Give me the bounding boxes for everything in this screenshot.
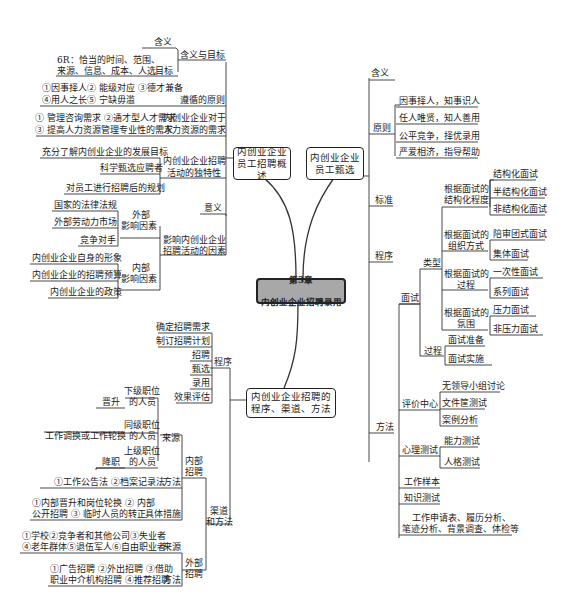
root-chapter-title: 内创业企业招聘录用 [261,297,342,307]
node-work-sample[interactable]: 工作样本 [404,477,440,488]
node-principles-line1: ①因事择人② 能级对应 ③德才兼备 [42,83,183,94]
node-internal-recruit-label-1[interactable]: 内部 [183,456,205,467]
node-selection-meaning[interactable]: 含义 [371,68,389,79]
interview-type-jury: 陪审团式面试 [493,229,547,240]
interview-type-group-3-label-1[interactable]: 根据面试的 [444,269,488,280]
node-principles-line2: ④用人之长⑤ 宁缺毋滥 [42,95,135,106]
internal-factor-item-2: 内创业企业的招聘预算 [32,270,122,281]
selection-principle-2: 任人唯贤，知人善用 [399,113,480,124]
interview-type-group-4-label-1[interactable]: 根据面试的 [444,308,488,319]
node-channels-label-1[interactable]: 渠道 [208,506,230,517]
node-meaning-goal[interactable]: 含义与目标 [180,50,225,61]
node-other-methods-line2[interactable]: 笔迹分析、背景调查、体检等 [402,524,519,535]
node-external-source[interactable]: 来源 [163,542,181,553]
external-factor-item-1: 国家的法律法规 [54,200,117,211]
internal-source-same-2: 的人员 [124,431,160,442]
node-interview-process[interactable]: 过程 [424,346,442,357]
node-meaning-goal-meaning[interactable]: 含义 [154,37,172,48]
node-internal-factors-label-1[interactable]: 内部 [128,263,154,274]
node-uniqueness-item-2: 科学甄选应聘者 [100,163,163,174]
branch-overview[interactable]: 内创业企业 员工招聘概述 [233,147,291,180]
node-uniqueness-label-1[interactable]: 内创业企业招聘 [163,156,226,167]
branch-process-channels[interactable]: 内创业企业招聘的 程序、渠道、方法 [246,388,336,418]
node-factors-label-1[interactable]: 影响内创业企业 [163,235,226,246]
interview-type-group-4-label-2[interactable]: 氛围 [444,319,488,330]
psych-test-ability: 能力测试 [444,436,480,447]
node-selection-procedure[interactable]: 程序 [375,251,393,262]
node-external-method[interactable]: 方法 [163,575,181,586]
interview-type-group: 集体面试 [493,249,529,260]
internal-measures-line1: ①内部晋升和岗位轮换 ② 内部 [32,498,155,509]
node-internal-recruit-label-2[interactable]: 招聘 [183,467,205,478]
internal-source-upper-1: 上级职位 [124,446,160,457]
interview-type-group-2-label-1[interactable]: 根据面试的 [444,230,488,241]
interview-type-group-1-label-1[interactable]: 根据面试的 [444,184,488,195]
interview-type-one-time: 一次性面试 [493,267,538,278]
node-internal-measures[interactable]: 具体措施 [145,509,181,520]
node-selection-methods[interactable]: 方法 [376,422,394,433]
selection-principle-1: 因事择人，知事识人 [399,96,480,107]
node-uniqueness-item-1: 充分了解内创业企业的发展目标 [42,147,168,158]
node-interview[interactable]: 面试 [401,293,419,304]
node-uniqueness-item-3: 对员工进行招聘后的规划 [66,183,165,194]
procedure-step-3: 招聘 [150,350,210,361]
internal-measures-line2: 公开招聘 ③ 临时人员的转正 [32,509,146,520]
internal-source-upper-2: 的人员 [124,457,160,468]
external-method-line1: ①广告招聘 ②外出招聘 ③借助 [50,564,173,575]
interview-type-series: 系列面试 [493,287,529,298]
node-knowledge-test[interactable]: 知识测试 [404,493,440,504]
internal-source-lower-1: 下级职位 [124,386,160,397]
internal-source-lower-2: 的人员 [124,397,160,408]
internal-source-same-1: 同级职位 [124,420,160,431]
node-assessment-center[interactable]: 评价中心 [402,399,438,410]
root-node-chapter-3[interactable]: 第3章 内创业企业招聘录用 [256,278,346,304]
node-principles[interactable]: 遵循的原则 [180,95,225,106]
node-external-recruit-label-1[interactable]: 外部 [183,558,205,569]
node-selection-principles[interactable]: 原则 [373,123,391,134]
node-factors-label-2[interactable]: 招聘活动的因素 [163,246,226,257]
interview-type-group-2-label-2[interactable]: 组织方式 [444,241,488,252]
interview-process-prepare: 面试准备 [448,335,484,346]
selection-principle-3: 公平竞争，择优录用 [399,131,480,142]
node-hr-needs-label-1[interactable]: 内创业企业对于 [163,113,226,124]
node-external-factors-label-2[interactable]: 影响因素 [121,221,157,232]
node-interview-types[interactable]: 类型 [423,258,441,269]
interview-type-semi-structured: 半结构化面试 [493,187,547,198]
internal-source-promotion: 晋升 [102,397,120,408]
node-significance[interactable]: 意义 [204,203,222,214]
node-channels-label-2[interactable]: 和方法 [206,517,232,528]
node-other-methods-line1[interactable]: 工作申请表、履历分析、 [412,513,511,524]
node-selection-standard[interactable]: 标准 [375,195,393,206]
node-internal-source[interactable]: 来源 [162,433,180,444]
mind-map-canvas: 第3章 内创业企业招聘录用 内创业企业 员工招聘概述 内创业企业 员工甄选 内创… [0,0,574,612]
external-factor-item-2: 外部劳动力市场 [54,217,117,228]
assessment-in-basket: 文件筐测试 [442,398,487,409]
procedure-step-2: 制订招聘计划 [150,336,210,347]
external-factor-item-3: 竞争对手 [80,235,116,246]
interview-process-conduct: 面试实施 [448,354,484,365]
node-internal-factors-label-2[interactable]: 影响因素 [121,274,157,285]
psych-test-personality: 人格测试 [444,457,480,468]
node-recruit-procedure[interactable]: 程序 [214,357,232,368]
procedure-step-4: 甄选 [150,364,210,375]
procedure-step-1: 确定招聘需求 [150,322,210,333]
node-psych-test[interactable]: 心理测试 [402,445,438,456]
node-external-recruit-label-2[interactable]: 招聘 [183,569,205,580]
assessment-case-analysis: 案例分析 [442,415,478,426]
interview-type-structured: 结构化面试 [493,169,538,180]
node-goal-detail-2: 来源、信息、成本、人选 [57,66,156,77]
root-chapter-number: 第3章 [261,275,342,285]
interview-type-group-3-label-2[interactable]: 过程 [444,280,488,291]
interview-type-group-1-label-2[interactable]: 结构化程度 [444,195,488,206]
external-source-line1: ①学校②竞争者和其他公司③失业者 [22,531,166,542]
external-source-line2: ④老年群体⑤退伍军人⑥自由职业者 [22,542,166,553]
node-goal[interactable]: 目标 [155,66,173,77]
internal-method-text: ①工作公告法 ②档案记录法 [54,477,165,488]
node-internal-method[interactable]: 方法 [163,477,181,488]
branch-selection[interactable]: 内创业企业 员工甄选 [306,147,364,180]
internal-source-rotation: 工作调换或工作轮换 [45,431,126,442]
node-hr-needs-line2: ③ 提高人力资源管理专业性的需求 [35,125,173,136]
node-uniqueness-label-2[interactable]: 活动的独特性 [167,168,221,179]
node-external-factors-label-1[interactable]: 外部 [128,210,154,221]
node-hr-needs-label-2[interactable]: 人力资源的需求 [163,125,226,136]
